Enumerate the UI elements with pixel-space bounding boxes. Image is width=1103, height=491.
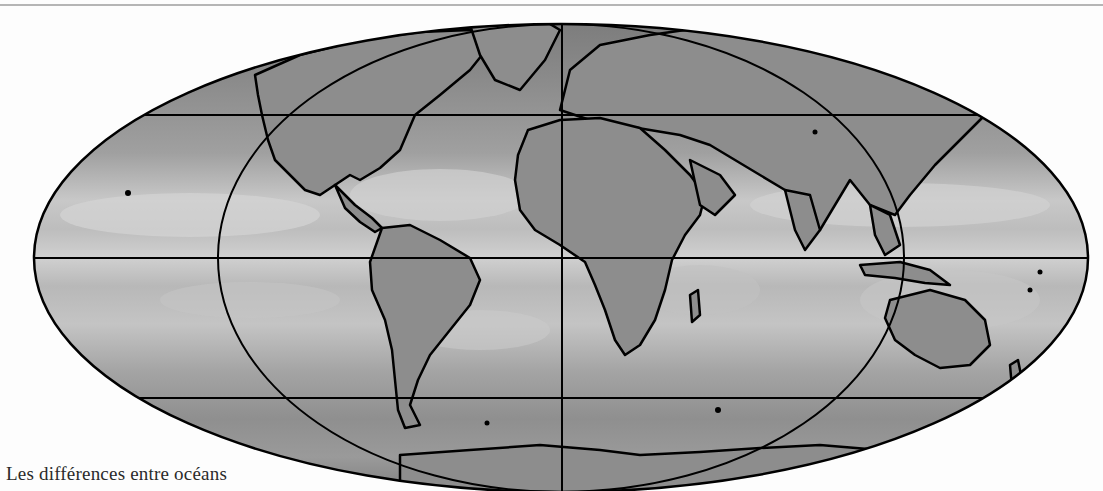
madagascar — [690, 290, 700, 322]
figure-caption: Les différences entre océans — [6, 463, 227, 485]
figure-page: Les différences entre océans — [0, 0, 1103, 491]
world-map — [0, 0, 1103, 491]
